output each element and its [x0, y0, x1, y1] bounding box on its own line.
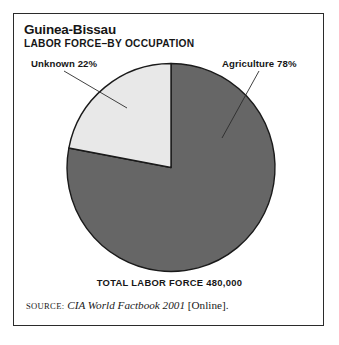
- figure-panel: Guinea-Bissau LABOR FORCE–BY OCCUPATION …: [0, 0, 339, 345]
- total-labor-force-caption: TOTAL LABOR FORCE 480,000: [0, 277, 339, 288]
- source-kicker: SOURCE:: [26, 301, 64, 311]
- pie-label-unknown: Unknown 22%: [31, 58, 97, 69]
- source-suffix: [Online].: [188, 299, 229, 311]
- page-title: Guinea-Bissau: [24, 22, 116, 37]
- chart-subtitle: LABOR FORCE–BY OCCUPATION: [24, 38, 194, 49]
- source-note: SOURCE: CIA World Factbook 2001 [Online]…: [26, 299, 228, 311]
- pie-label-agriculture: Agriculture 78%: [222, 58, 297, 69]
- source-work-title: CIA World Factbook 2001: [67, 299, 185, 311]
